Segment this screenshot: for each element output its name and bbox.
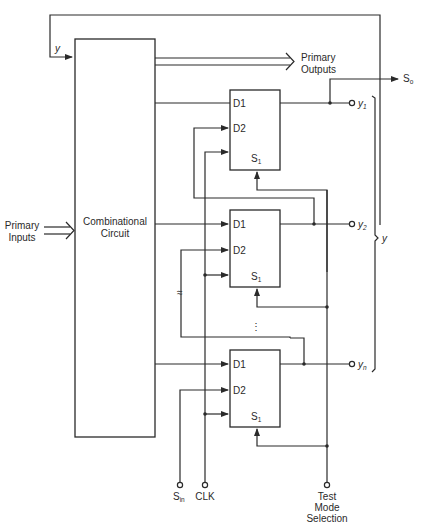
yn-terminal [349, 361, 354, 366]
scan-out-wire [330, 79, 398, 103]
ff1-d1-label: D1 [233, 98, 246, 109]
flip-flop-1: D1 D2 S1 [230, 90, 280, 170]
scan-in-label: Sin [173, 491, 185, 503]
ffn-d1-label: D1 [233, 359, 246, 370]
feedback-label: y [54, 43, 61, 54]
flip-flop-n: D1 D2 S1 [230, 350, 280, 427]
test-mode-label-3: Selection [306, 513, 347, 524]
flip-flop-2: D1 D2 S1 [230, 210, 280, 287]
combinational-label-1: Combinational [83, 216, 147, 227]
ffn-s1-wire [257, 429, 327, 446]
ff2-d1-label: D1 [233, 219, 246, 230]
ff1-d2-label: D2 [233, 123, 246, 134]
wire-break-symbol: ≈ [177, 287, 183, 298]
primary-inputs-arrow [44, 222, 74, 239]
y1-label: y1 [357, 98, 367, 110]
ff2-s1-wire [257, 289, 327, 307]
bracket-label: y [381, 233, 388, 244]
scan-in-wire [180, 390, 228, 482]
scan-design-diagram: y Combinational Circuit Primary Inputs P… [0, 0, 425, 525]
combinational-label-2: Circuit [101, 228, 130, 239]
test-mode-label-1: Test [318, 491, 337, 502]
y2-label: y2 [357, 219, 367, 231]
test-mode-terminal [324, 482, 329, 487]
ffn-d2-label: D2 [233, 385, 246, 396]
clk-wire [205, 152, 228, 485]
yn-label: yn [357, 359, 367, 371]
ffn-feedback-wire [290, 338, 304, 364]
scan-out-label: So [403, 73, 414, 85]
y2-terminal [349, 221, 354, 226]
primary-outputs-label-2: Outputs [301, 64, 336, 75]
clk-label: CLK [195, 491, 215, 502]
clk-terminal [202, 482, 207, 487]
test-mode-label-2: Mode [314, 502, 339, 513]
primary-inputs-label-1: Primary [5, 220, 39, 231]
scan-in-terminal [177, 482, 182, 487]
ff2-d2-label: D2 [233, 245, 246, 256]
y1-terminal [349, 100, 354, 105]
primary-outputs-arrow [155, 53, 294, 70]
y-bracket [372, 96, 378, 372]
ellipsis: ⋮ [251, 321, 261, 332]
primary-outputs-label-1: Primary [301, 52, 335, 63]
primary-inputs-label-2: Inputs [8, 232, 35, 243]
